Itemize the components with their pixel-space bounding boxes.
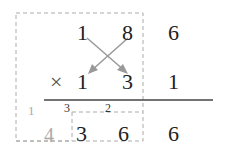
multiply-sign: × xyxy=(50,71,62,93)
result-digit-1: 3 xyxy=(76,123,87,145)
carry-2: 2 xyxy=(105,102,111,114)
top-digit-1: 1 xyxy=(77,22,88,44)
bottom-digit-1: 1 xyxy=(77,71,88,93)
box-digit: 4 xyxy=(44,124,54,147)
result-digit-3: 6 xyxy=(168,123,179,145)
side-carry: 1 xyxy=(28,103,35,119)
diagram-lines xyxy=(0,0,229,152)
bottom-digit-3: 1 xyxy=(168,71,179,93)
top-digit-3: 6 xyxy=(168,22,179,44)
bottom-digit-2: 3 xyxy=(122,71,133,93)
result-digit-2: 6 xyxy=(118,123,129,145)
carry-1: 3 xyxy=(64,102,70,114)
top-digit-2: 8 xyxy=(122,22,133,44)
